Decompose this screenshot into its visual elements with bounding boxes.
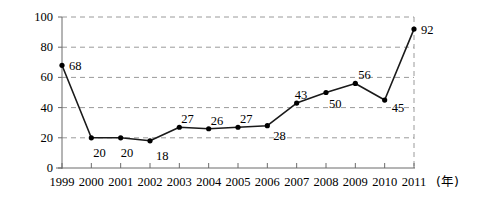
line-chart: 020406080100 199920002001200220032004200… [0,0,479,205]
data-label-2000: 20 [93,147,106,160]
data-point-2006 [265,123,270,128]
data-label-2011: 92 [421,24,434,37]
data-point-2010 [382,97,387,102]
data-point-2002 [147,138,152,143]
series-markers [59,26,416,143]
y-tick-label-0: 0 [0,162,53,175]
x-axis-unit-label: (年) [436,176,459,189]
axes [56,17,415,169]
data-label-1999: 68 [69,60,82,73]
y-tick-label-80: 80 [0,41,53,54]
data-point-2001 [118,135,123,140]
data-point-2000 [89,135,94,140]
data-point-2011 [411,26,416,31]
data-label-2004: 26 [211,115,224,128]
y-tick-label-20: 20 [0,132,53,145]
x-axis-ticks [62,163,414,168]
data-point-1999 [59,63,64,68]
gridlines [62,17,414,168]
data-label-2001: 20 [121,147,134,160]
y-tick-label-40: 40 [0,102,53,115]
data-point-2009 [353,81,358,86]
data-label-2002: 18 [156,150,169,163]
series-line [62,29,414,141]
y-tick-label-60: 60 [0,71,53,84]
x-tick-label-2011: 2011 [392,176,436,189]
data-label-2010: 45 [392,102,405,115]
y-tick-label-100: 100 [0,11,53,24]
data-label-2009: 56 [358,69,371,82]
data-label-2006: 28 [273,130,286,143]
data-label-2005: 27 [240,113,253,126]
data-label-2007: 43 [295,89,308,102]
data-label-2003: 27 [181,113,194,126]
data-point-2008 [323,90,328,95]
series-path [62,29,414,141]
data-label-2008: 50 [329,98,342,111]
